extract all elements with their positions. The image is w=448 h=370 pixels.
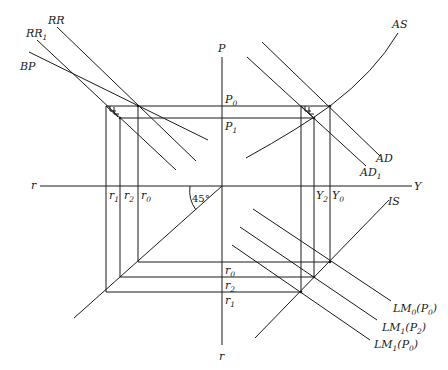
intersection-point xyxy=(313,117,316,120)
diagram-canvas: P r r Y 45° xyxy=(0,0,448,370)
intersection-point xyxy=(137,105,140,108)
rr-curve xyxy=(57,27,196,161)
label-r1-axis: r1 xyxy=(109,189,119,204)
label-p1: P1 xyxy=(224,120,237,135)
label-y0: Y0 xyxy=(332,189,344,204)
label-r1-vertical: r1 xyxy=(225,294,235,309)
intersection-point xyxy=(300,291,303,294)
45-degree-line xyxy=(74,186,222,318)
intersection-point xyxy=(329,105,332,108)
arrow-marker-right xyxy=(301,106,314,117)
label-r0-axis: r0 xyxy=(141,189,151,204)
intersection-point xyxy=(119,117,122,120)
label-lm0-p0: LM0(P0) xyxy=(392,302,437,317)
axis-label-p: P xyxy=(217,42,226,55)
label-r2-vertical: r2 xyxy=(225,279,235,294)
label-ad: AD xyxy=(375,152,393,165)
axis-label-y: Y xyxy=(414,180,423,193)
label-ad1: AD1 xyxy=(359,166,382,181)
is-curve xyxy=(255,200,389,338)
lm1p2-curve xyxy=(240,227,377,320)
label-lm1-p0: LM1(P0) xyxy=(373,338,418,353)
label-lm1-p2: LM1(P2) xyxy=(381,321,426,336)
label-is: IS xyxy=(387,195,400,208)
axis-label-r-bottom: r xyxy=(219,350,225,363)
label-y2: Y2 xyxy=(316,189,328,204)
label-as: AS xyxy=(391,18,408,31)
label-r2-axis: r2 xyxy=(124,189,134,204)
label-rr: RR xyxy=(47,14,65,27)
intersection-point xyxy=(329,261,332,264)
label-p0: P0 xyxy=(224,93,237,108)
label-rr1: RR1 xyxy=(25,27,47,42)
label-r0-vertical: r0 xyxy=(225,264,235,279)
bp-curve xyxy=(29,52,208,140)
intersection-point xyxy=(313,276,316,279)
label-bp: BP xyxy=(19,60,36,73)
lm0-curve xyxy=(253,209,391,301)
as-curve xyxy=(246,33,398,158)
axis-label-r-left: r xyxy=(31,179,37,192)
angle-label: 45° xyxy=(192,193,210,204)
